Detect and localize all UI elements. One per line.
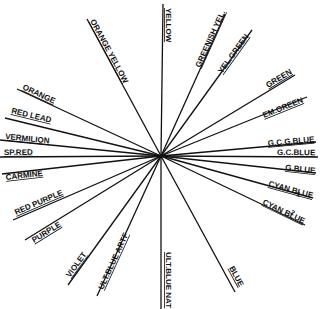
label-em-green: EM.GREEN (261, 95, 304, 119)
label-red-purple: RED PURPLE (13, 188, 65, 217)
label-ult-blue-nat: ULT.BLUE NAT (164, 252, 173, 308)
label-violet: VIOLET (64, 250, 88, 279)
label-cyan-blue-2: CYAN BLUE (261, 198, 307, 226)
label-yellow: YELLOW (164, 8, 173, 43)
label-g-blue: G.BLUE (285, 163, 317, 175)
label-red-lead: RED LEAD (11, 106, 53, 124)
label-blue: BLUE (227, 265, 246, 289)
spokes-group (0, 4, 318, 309)
label-orange-yellow: ORANGE YELLOW (88, 18, 130, 85)
label-orange: ORANGE (21, 83, 57, 106)
label-purple: PURPLE (30, 220, 63, 245)
label-ult-blue-artf: ULT.BLUE ARTF (97, 231, 131, 291)
label-vermilion: VERMILION (5, 132, 50, 145)
color-wheel-diagram: YELLOWGREENISH YEL.YEL.GREENGREENEM.GREE… (0, 0, 321, 309)
spoke-red-purple (13, 156, 161, 220)
label-gc-blue: G.C.BLUE (277, 148, 316, 157)
spoke-yellow (161, 4, 163, 156)
label-yel-green: YEL.GREEN (216, 32, 250, 75)
label-sp-red: SP.RED (4, 148, 33, 157)
label-carmine: CARMINE (5, 169, 44, 182)
spoke-orange (17, 89, 161, 156)
center-hub (159, 154, 163, 158)
label-greenish-yel: GREENISH YEL. (194, 9, 228, 69)
label-cyan-blue-1: CYAN BLUE (267, 179, 314, 200)
label-gcg-blue: G.C.G.BLUE (267, 135, 315, 148)
